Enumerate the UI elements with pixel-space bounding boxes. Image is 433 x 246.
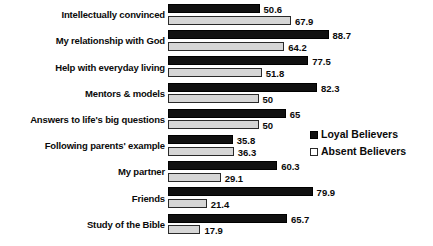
category-label: My relationship with God xyxy=(0,36,165,46)
legend-label-loyal: Loyal Believers xyxy=(321,129,398,140)
bar-value-label: 36.3 xyxy=(238,148,257,158)
bar-value-label: 17.9 xyxy=(204,226,223,236)
plot-area: Intellectually convinced50.667.9My relat… xyxy=(0,0,433,246)
legend-swatch-icon-loyal xyxy=(310,131,318,139)
category-label: My partner xyxy=(0,167,165,177)
category-label: Friends xyxy=(0,194,165,204)
bar-loyal xyxy=(168,161,277,170)
bar-absent xyxy=(168,42,284,51)
category-label: Answers to life's big questions xyxy=(0,115,165,125)
bar-value-label: 65.7 xyxy=(291,215,310,225)
bar-loyal xyxy=(168,135,233,144)
bar-value-label: 50 xyxy=(263,95,274,105)
bar-value-label: 64.2 xyxy=(288,43,307,53)
category-label: Mentors & models xyxy=(0,89,165,99)
category-label: Study of the Bible xyxy=(0,220,165,230)
bar-value-label: 50.6 xyxy=(264,5,283,15)
bar-loyal xyxy=(168,214,287,223)
bar-value-label: 79.9 xyxy=(317,188,336,198)
category-label: Help with everyday living xyxy=(0,63,165,73)
bar-value-label: 88.7 xyxy=(333,31,352,41)
bar-value-label: 51.8 xyxy=(266,69,285,79)
bar-value-label: 65 xyxy=(290,110,301,120)
legend-label-absent: Absent Believers xyxy=(321,146,406,157)
bar-absent xyxy=(168,120,259,129)
bar-absent xyxy=(168,225,200,234)
bar-value-label: 82.3 xyxy=(321,84,340,94)
bar-value-label: 67.9 xyxy=(295,17,314,27)
category-label: Intellectually convinced xyxy=(0,10,165,20)
bar-loyal xyxy=(168,109,286,118)
legend-item-absent-believers: Absent Believers xyxy=(310,143,433,160)
bar-absent xyxy=(168,199,207,208)
legend-item-loyal-believers: Loyal Believers xyxy=(310,126,433,143)
chart-legend: Loyal Believers Absent Believers xyxy=(310,126,433,160)
bar-loyal xyxy=(168,30,329,39)
bar-loyal xyxy=(168,187,313,196)
bar-value-label: 21.4 xyxy=(211,200,230,210)
bar-loyal xyxy=(168,56,308,65)
bar-absent xyxy=(168,173,221,182)
category-label: Following parents' example xyxy=(0,141,165,151)
bar-value-label: 35.8 xyxy=(237,136,256,146)
bar-value-label: 77.5 xyxy=(312,57,331,67)
bar-loyal xyxy=(168,4,260,13)
bar-absent xyxy=(168,147,234,156)
bar-loyal xyxy=(168,83,317,92)
bar-value-label: 50 xyxy=(263,121,274,131)
bar-absent xyxy=(168,16,291,25)
bar-absent xyxy=(168,94,259,103)
bar-absent xyxy=(168,68,262,77)
bar-chart: Intellectually convinced50.667.9My relat… xyxy=(0,0,433,246)
bar-value-label: 29.1 xyxy=(225,174,244,184)
legend-swatch-icon-absent xyxy=(310,148,318,156)
bar-value-label: 60.3 xyxy=(281,162,300,172)
